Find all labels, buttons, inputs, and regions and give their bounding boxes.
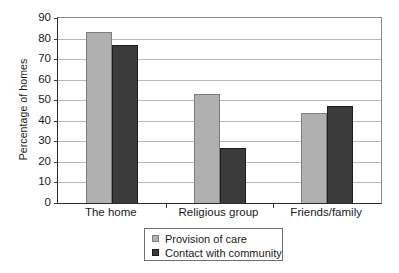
bar [86, 32, 112, 203]
x-axis-category-label: Friends/family [272, 206, 380, 219]
legend-item: Contact with community [152, 246, 282, 259]
bar [220, 148, 246, 204]
y-axis-tick-label: 0 [27, 197, 51, 208]
bar [327, 106, 353, 203]
plot-area: 0102030405060708090 [57, 17, 382, 204]
y-axis-tick [54, 59, 58, 60]
y-axis-tick [54, 39, 58, 40]
y-axis-tick-label: 10 [27, 176, 51, 187]
y-axis-tick [54, 203, 58, 204]
y-axis-title: Percentage of homes [16, 17, 30, 202]
y-axis-tick [54, 18, 58, 19]
y-axis-tick-label: 50 [27, 94, 51, 105]
legend-swatch-light-gray-square-icon [152, 235, 159, 242]
y-axis-tick-label: 90 [27, 12, 51, 23]
y-axis-tick [54, 182, 58, 183]
y-axis-tick-label: 20 [27, 156, 51, 167]
y-axis-tick [54, 121, 58, 122]
x-axis-category-label: The home [57, 206, 165, 219]
chart-legend: Provision of care Contact with community [144, 228, 283, 261]
y-axis-tick-label: 60 [27, 74, 51, 85]
y-axis-tick-label: 40 [27, 115, 51, 126]
y-axis-tick-label: 80 [27, 33, 51, 44]
legend-swatch-dark-gray-square-icon [152, 249, 159, 256]
y-axis-tick-label: 30 [27, 135, 51, 146]
bar [301, 113, 327, 203]
bar [112, 45, 138, 203]
legend-item-label: Contact with community [165, 247, 282, 259]
bar-chart: Percentage of homes 0102030405060708090 … [0, 0, 399, 273]
y-axis-tick [54, 141, 58, 142]
legend-item: Provision of care [152, 232, 282, 245]
x-axis-category-label: Religious group [165, 206, 273, 219]
y-axis-tick [54, 80, 58, 81]
bar [194, 94, 220, 203]
legend-item-label: Provision of care [165, 233, 247, 245]
y-axis-tick [54, 100, 58, 101]
y-axis-tick [54, 162, 58, 163]
y-axis-tick-label: 70 [27, 53, 51, 64]
